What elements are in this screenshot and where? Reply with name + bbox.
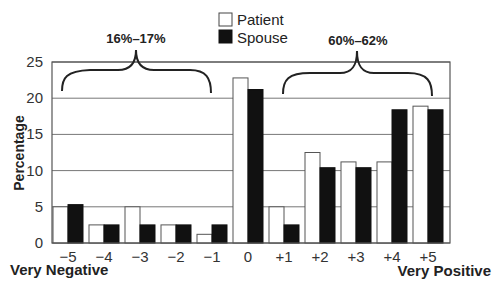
y-tick-label: 5: [35, 198, 43, 215]
bar-spouse: [284, 225, 299, 243]
bar-patient: [269, 207, 284, 243]
bar-chart: 0510152025 Percentage −5−4−3−2−10+1+2+3+…: [0, 0, 501, 294]
bar-patient: [413, 106, 428, 243]
x-axis-end-label-right: Very Positive: [398, 262, 491, 279]
y-tick-label: 20: [26, 89, 43, 106]
legend: Patient Spouse: [219, 11, 288, 46]
legend-swatch-spouse: [219, 30, 232, 43]
legend-label-patient: Patient: [237, 11, 285, 28]
bar-patient: [125, 207, 140, 243]
legend-label-spouse: Spouse: [237, 29, 288, 46]
y-tick-label: 0: [35, 234, 43, 251]
annotation-positive: 60%–62%: [328, 33, 388, 48]
bar-patient: [197, 234, 212, 243]
x-axis-end-label-left: Very Negative: [10, 261, 108, 278]
bar-patient: [161, 225, 176, 243]
bar-patient: [377, 162, 392, 243]
bar-spouse: [428, 110, 443, 243]
bar-spouse: [68, 205, 83, 243]
legend-swatch-patient: [219, 13, 232, 26]
brace-right: [283, 51, 432, 96]
bar-spouse: [140, 225, 155, 243]
bar-spouse: [176, 225, 191, 243]
bar-spouse: [104, 225, 119, 243]
x-tick-label: +2: [311, 248, 328, 265]
bar-patient: [233, 78, 248, 243]
x-tick-label: +3: [347, 248, 364, 265]
bar-spouse: [320, 168, 335, 243]
x-tick-label: −1: [203, 248, 220, 265]
x-axis-ticks: −5−4−3−2−10+1+2+3+4+5: [59, 248, 436, 265]
x-tick-label: 0: [244, 248, 252, 265]
bar-patient: [53, 207, 68, 243]
brace-left: [62, 50, 211, 93]
bar-patient: [305, 153, 320, 244]
x-tick-label: −3: [131, 248, 148, 265]
y-axis-label: Percentage: [11, 115, 27, 191]
bar-patient: [89, 225, 104, 243]
bar-patient: [341, 162, 356, 243]
y-tick-label: 10: [26, 162, 43, 179]
x-tick-label: −2: [167, 248, 184, 265]
bar-spouse: [248, 90, 263, 243]
bars: [53, 78, 443, 243]
bar-spouse: [392, 110, 407, 243]
bar-spouse: [212, 225, 227, 243]
x-tick-label: +1: [275, 248, 292, 265]
annotation-negative: 16%–17%: [106, 31, 166, 46]
y-axis-ticks: 0510152025: [26, 53, 43, 251]
bar-spouse: [356, 168, 371, 243]
y-tick-label: 25: [26, 53, 43, 70]
y-tick-label: 15: [26, 125, 43, 142]
